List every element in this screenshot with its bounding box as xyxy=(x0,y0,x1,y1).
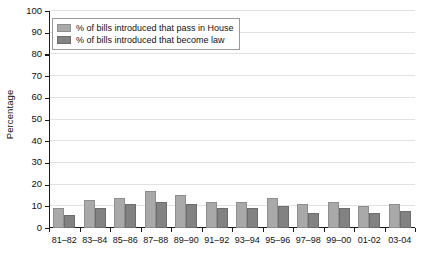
bar xyxy=(328,202,339,228)
bar xyxy=(247,208,258,228)
x-axis-tick-mark xyxy=(293,228,294,232)
y-axis-tick-label: 40 xyxy=(31,135,42,146)
y-axis-tick-label: 0 xyxy=(37,222,42,233)
x-axis-tick-mark xyxy=(141,228,142,232)
x-axis-tick-mark xyxy=(49,228,50,232)
y-axis-tick-label: 70 xyxy=(31,70,42,81)
x-axis-tick-label: 03-04 xyxy=(385,235,416,245)
x-axis-tick-label: 97–98 xyxy=(293,235,324,245)
legend-swatch xyxy=(57,36,71,44)
x-axis-tick-mark xyxy=(354,228,355,232)
bar xyxy=(186,204,197,228)
x-axis-tick-mark xyxy=(385,228,386,232)
y-axis-tick-label: 50 xyxy=(31,113,42,124)
y-axis-tick-label: 20 xyxy=(31,178,42,189)
x-axis-tick-label: 81–82 xyxy=(49,235,80,245)
x-axis-tick-mark xyxy=(232,228,233,232)
x-axis-tick-label: 83–84 xyxy=(80,235,111,245)
y-axis-tick-label: 30 xyxy=(31,156,42,167)
bar-group xyxy=(385,11,416,228)
bar xyxy=(84,200,95,228)
x-axis-tick-label: 89–90 xyxy=(171,235,202,245)
bar-group xyxy=(324,11,355,228)
y-axis-tick-label: 10 xyxy=(31,200,42,211)
x-axis-tick-label: 01-02 xyxy=(354,235,385,245)
bar xyxy=(267,198,278,228)
y-axis-tick-label: 80 xyxy=(31,48,42,59)
bar xyxy=(175,195,186,228)
bar-group xyxy=(293,11,324,228)
x-axis-tick-label: 99–00 xyxy=(324,235,355,245)
bar xyxy=(114,198,125,228)
bar xyxy=(236,202,247,228)
bar xyxy=(339,208,350,228)
legend-swatch xyxy=(57,24,71,32)
legend-label: % of bills introduced that become law xyxy=(76,35,225,45)
bar xyxy=(297,204,308,228)
bar xyxy=(95,208,106,228)
x-axis-tick-mark xyxy=(202,228,203,232)
legend: % of bills introduced that pass in House… xyxy=(52,18,240,50)
x-axis-tick-mark xyxy=(110,228,111,232)
bar xyxy=(156,202,167,228)
y-axis-tick-label: 100 xyxy=(26,5,42,16)
bar xyxy=(369,213,380,228)
bar-group xyxy=(263,11,294,228)
x-axis-tick-mark xyxy=(80,228,81,232)
bar xyxy=(206,202,217,228)
legend-item: % of bills introduced that become law xyxy=(57,34,234,46)
bar xyxy=(64,215,75,228)
bar xyxy=(53,208,64,228)
bar xyxy=(217,208,228,228)
x-axis-tick-label: 91–92 xyxy=(202,235,233,245)
bar-group xyxy=(354,11,385,228)
x-axis: 81–8283–8485–8687–8889–9091–9293–9495–96… xyxy=(49,228,415,254)
x-axis-tick-mark xyxy=(324,228,325,232)
x-axis-tick-mark xyxy=(415,228,416,232)
y-axis-tick-label: 90 xyxy=(31,26,42,37)
bar xyxy=(278,206,289,228)
x-axis-tick-label: 93–94 xyxy=(232,235,263,245)
bar xyxy=(358,206,369,228)
x-axis-tick-label: 87–88 xyxy=(141,235,172,245)
bar xyxy=(400,211,411,228)
x-axis-tick-label: 85–86 xyxy=(110,235,141,245)
legend-item: % of bills introduced that pass in House xyxy=(57,22,234,34)
y-axis-ticks: 0102030405060708090100 xyxy=(0,11,49,228)
bar xyxy=(308,213,319,228)
bar xyxy=(125,204,136,228)
y-axis-tick-label: 60 xyxy=(31,91,42,102)
legend-label: % of bills introduced that pass in House xyxy=(76,23,234,33)
bar xyxy=(145,191,156,228)
x-axis-tick-label: 95–96 xyxy=(263,235,294,245)
bar-chart: Percentage 0102030405060708090100 81–828… xyxy=(0,0,422,255)
x-axis-labels: 81–8283–8485–8687–8889–9091–9293–9495–96… xyxy=(49,235,415,245)
x-axis-tick-mark xyxy=(171,228,172,232)
x-axis-tick-mark xyxy=(263,228,264,232)
bar xyxy=(389,204,400,228)
